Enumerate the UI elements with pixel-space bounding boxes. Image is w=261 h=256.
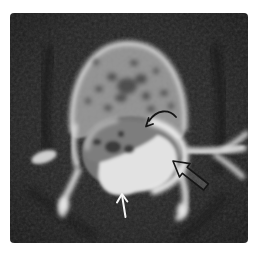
thecal-sac-bulge: [105, 173, 139, 195]
right-inferior-process-tip: [177, 203, 187, 217]
ct-scan-image: [0, 0, 261, 256]
left-inferior-process-tip: [59, 197, 69, 213]
medical-figure: [0, 0, 261, 256]
